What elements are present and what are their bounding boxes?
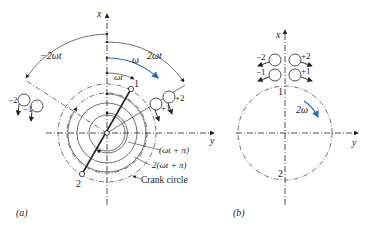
x-axis-label-b: x	[275, 29, 281, 40]
leader-2wt-pi	[134, 157, 150, 165]
crank-point-2	[79, 171, 84, 176]
center-pivot	[105, 131, 110, 136]
neg-2wt-label: −2ωt	[40, 50, 62, 61]
point1-label-b: 1	[278, 86, 283, 97]
mass-neg2-label-b: −2	[256, 52, 266, 62]
y-axis-label-a: y	[209, 135, 215, 146]
2omega-label: 2ω	[296, 104, 308, 115]
caption-a: (a)	[16, 207, 28, 219]
mass-pos2-label-a: +2	[175, 93, 185, 103]
mass-neg1-label-b: −1	[256, 67, 266, 77]
diagram-b: x y −2 −1 +2 +1 1 2 2ω (b)	[233, 29, 358, 219]
wt-label: ωt	[114, 72, 123, 82]
point2-label-b: 2	[278, 168, 283, 179]
omega-label-a: ω	[132, 54, 139, 65]
balancing-diagram: x y −2ωt 2ωt ω ωt 1 2 (ωt + π) 2(ωt + π)…	[0, 0, 369, 231]
mass-pos1-label-a: +1	[161, 103, 171, 113]
diagram-a: x y −2ωt 2ωt ω ωt 1 2 (ωt + π) 2(ωt + π)…	[8, 8, 215, 219]
caption-b: (b)	[233, 207, 245, 219]
crank-circle-label: Crank circle	[141, 175, 188, 185]
mass-pos1-label-b: +1	[301, 66, 311, 76]
2wt-label: 2ωt	[147, 50, 162, 61]
x-axis-label-a: x	[96, 8, 102, 19]
mass-neg1-label-a: −1	[23, 104, 33, 114]
mass-pos2-label-b: +2	[301, 51, 311, 61]
mass-neg1-a	[31, 100, 43, 121]
2wt-pi-label: 2(ωt + π)	[152, 160, 186, 170]
arc-neg-2wt	[26, 34, 107, 78]
point2-label-a: 2	[76, 178, 81, 189]
crank-point-1	[128, 86, 133, 91]
point1-label-a: 1	[134, 78, 139, 89]
mass-neg2-label-a: −2	[8, 95, 18, 105]
wt-pi-label: (ωt + π)	[159, 145, 189, 155]
leader-crank	[133, 176, 141, 179]
y-axis-label-b: y	[351, 137, 357, 148]
